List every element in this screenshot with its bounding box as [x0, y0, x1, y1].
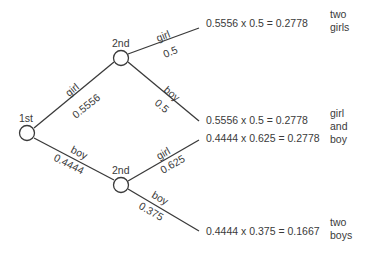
outcome-two-boys-line1: two	[330, 216, 347, 228]
branch-first-girl-event: girl	[63, 80, 81, 98]
result-girl-boy-calc: 0.5556 x 0.5 = 0.2778	[206, 114, 308, 126]
probability-tree-diagram: 1st 2nd 2nd girl 0.5556 boy 0.4444 girl …	[0, 0, 370, 253]
outcome-girl-and-boy-line3: boy	[330, 133, 348, 145]
node-second-upper-label: 2nd	[112, 37, 130, 49]
result-boy-girl-calc: 0.4444 x 0.625 = 0.2778	[206, 132, 320, 144]
outcome-two-boys-line2: boys	[330, 229, 352, 241]
node-first-circle	[20, 126, 35, 141]
node-second-upper-circle	[114, 51, 129, 66]
node-first-label: 1st	[19, 112, 33, 124]
outcome-two-girls-line2: girls	[330, 21, 349, 33]
node-second-lower-circle	[114, 178, 129, 193]
branch-upper-girl-prob: 0.5	[161, 43, 179, 60]
branch-upper-boy-prob: 0.5	[153, 96, 172, 115]
branch-first-girl-prob: 0.5556	[70, 91, 103, 121]
result-two-boys-calc: 0.4444 x 0.375 = 0.1667	[206, 225, 320, 237]
outcome-two-girls-line1: two	[330, 8, 347, 20]
outcome-girl-and-boy-line1: girl	[330, 107, 344, 119]
result-two-girls-calc: 0.5556 x 0.5 = 0.2778	[206, 17, 308, 29]
node-second-lower-label: 2nd	[112, 164, 130, 176]
branch-upper-girl-event: girl	[154, 27, 171, 43]
outcome-girl-and-boy-line2: and	[330, 120, 348, 132]
